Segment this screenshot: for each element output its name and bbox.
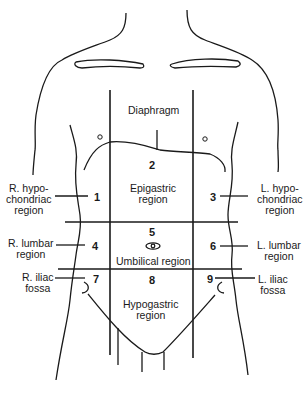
region-number-6: 6 (210, 240, 216, 252)
label-l-iliac: L. iliac fossa (258, 274, 288, 296)
label-hypogastric: Hypogastric region (123, 299, 178, 321)
region-number-4: 4 (92, 240, 98, 252)
region-number-3: 3 (210, 191, 216, 203)
region-number-9: 9 (207, 273, 213, 285)
label-r-iliac: R. iliac fossa (22, 272, 54, 294)
region-number-8: 8 (149, 274, 155, 286)
region-number-7: 7 (93, 273, 99, 285)
label-l-hypochondriac: L. hypo- chondriac region (257, 183, 303, 216)
label-umbilical: Umbilical region (116, 256, 191, 267)
region-number-1: 1 (94, 191, 100, 203)
region-number-2: 2 (149, 159, 155, 171)
label-l-lumbar: L. lumbar region (257, 240, 301, 262)
label-diaphragm: Diaphragm (128, 105, 179, 116)
region-number-5: 5 (149, 226, 155, 238)
label-epigastric: Epigastric region (130, 183, 176, 205)
label-r-lumbar: R. lumbar region (8, 238, 54, 260)
abdominal-regions-diagram: Diaphragm R. hypo- chondriac region L. h… (0, 0, 307, 395)
label-r-hypochondriac: R. hypo- chondriac region (6, 183, 52, 216)
